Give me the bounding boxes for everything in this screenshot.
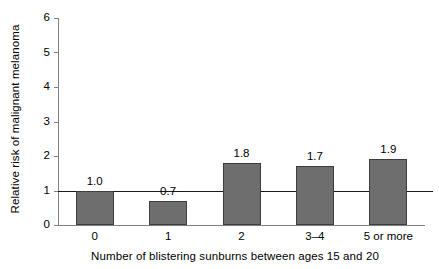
x-axis-title: Number of blistering sunburns between ag… (40, 249, 430, 263)
y-axis-title: Relative risk of malignant melanoma (4, 3, 26, 235)
plot-area: 1.00.71.81.71.9 (58, 18, 425, 225)
y-tick-label: 5 (32, 47, 50, 58)
bar (296, 166, 334, 225)
bar-value-label: 1.0 (75, 175, 115, 187)
bar (369, 159, 407, 225)
x-axis-line (58, 225, 425, 226)
y-tick-label: 1 (32, 185, 50, 196)
bar-chart-figure: Relative risk of malignant melanoma 0123… (0, 0, 439, 269)
bar-value-label: 1.8 (222, 147, 262, 159)
y-tick-label: 0 (32, 219, 50, 230)
x-tick-label: 5 or more (343, 230, 433, 243)
y-tick-label: 6 (32, 12, 50, 23)
y-tick-label: 3 (32, 116, 50, 127)
y-tick-mark (54, 225, 59, 226)
bar-value-label: 0.7 (148, 185, 188, 197)
bar-value-label: 1.9 (368, 143, 408, 155)
bar-value-label: 1.7 (295, 150, 335, 162)
bar (149, 201, 187, 225)
y-tick-label: 4 (32, 81, 50, 92)
bar (76, 191, 114, 226)
y-tick-label: 2 (32, 150, 50, 161)
bar (223, 163, 261, 225)
